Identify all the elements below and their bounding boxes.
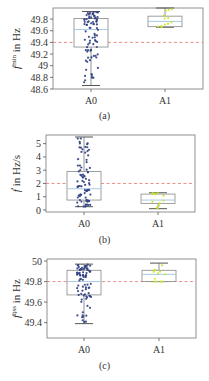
- data-point: [96, 34, 98, 36]
- iqr-box: [142, 270, 176, 281]
- data-point: [77, 137, 79, 139]
- data-point: [96, 23, 98, 25]
- data-point: [88, 17, 90, 19]
- y-tick-label: 1: [36, 191, 41, 202]
- data-point: [82, 286, 84, 288]
- data-point: [160, 25, 162, 27]
- data-point: [84, 184, 86, 186]
- data-point: [89, 265, 91, 267]
- data-point: [79, 164, 81, 166]
- data-point: [87, 142, 89, 144]
- x-tick-label: A1: [159, 95, 171, 106]
- data-point: [89, 204, 91, 206]
- data-point: [88, 20, 90, 22]
- data-point: [85, 274, 87, 276]
- data-point: [81, 148, 83, 150]
- data-point: [86, 24, 88, 26]
- data-point: [88, 179, 90, 181]
- data-point: [156, 207, 158, 209]
- data-point: [153, 271, 155, 273]
- data-point: [89, 40, 91, 42]
- y-tick-label: 49.2: [31, 49, 49, 60]
- data-point: [86, 14, 88, 16]
- data-point: [89, 271, 91, 273]
- data-point: [76, 274, 78, 276]
- data-point: [87, 200, 89, 202]
- data-point: [84, 284, 86, 286]
- data-point: [76, 201, 78, 203]
- data-point: [86, 18, 88, 20]
- data-point: [157, 192, 159, 194]
- data-point: [89, 167, 91, 169]
- y-tick-label: 49.6: [31, 25, 49, 36]
- iqr-box: [67, 270, 101, 295]
- box-a1: A1: [142, 263, 176, 355]
- data-point: [77, 205, 79, 207]
- data-point: [83, 23, 85, 25]
- x-tick-label: A1: [153, 344, 165, 355]
- data-point: [85, 30, 87, 32]
- data-point: [77, 284, 79, 286]
- data-point: [85, 315, 87, 317]
- data-point: [161, 280, 163, 282]
- chart-panel-b: 012345ḟ in Hz/sA0A1: [10, 135, 195, 229]
- y-tick-label: 50: [32, 256, 42, 267]
- data-point: [96, 41, 98, 43]
- data-point: [151, 193, 153, 195]
- data-point: [90, 49, 92, 51]
- data-point: [97, 29, 99, 31]
- data-point: [97, 67, 99, 69]
- data-point: [80, 301, 82, 303]
- data-point: [80, 166, 82, 168]
- data-point: [81, 180, 83, 182]
- data-point: [85, 196, 87, 198]
- data-point: [85, 60, 87, 62]
- data-point: [77, 158, 79, 160]
- data-point: [96, 46, 98, 48]
- data-point: [92, 43, 94, 45]
- data-point: [90, 73, 92, 75]
- data-point: [89, 59, 91, 61]
- data-point: [81, 298, 83, 300]
- data-point: [157, 26, 159, 28]
- data-point: [82, 177, 84, 179]
- y-tick-label: 49: [38, 60, 48, 71]
- data-point: [83, 19, 85, 21]
- caption-b: (b): [0, 234, 209, 245]
- x-tick-label: A1: [152, 218, 164, 229]
- data-point: [81, 290, 83, 292]
- data-point: [77, 196, 79, 198]
- data-point: [88, 13, 90, 15]
- data-point: [76, 180, 78, 182]
- data-point: [167, 23, 169, 25]
- data-point: [164, 273, 166, 275]
- data-point: [86, 169, 88, 171]
- data-point: [80, 137, 82, 139]
- data-point: [92, 21, 94, 23]
- iqr-box: [141, 194, 175, 203]
- data-point: [83, 268, 85, 270]
- data-point: [76, 314, 78, 316]
- data-point: [80, 151, 82, 153]
- data-point: [88, 149, 90, 151]
- data-point: [162, 199, 164, 201]
- data-point: [81, 316, 83, 318]
- data-point: [77, 164, 79, 166]
- data-point: [84, 151, 86, 153]
- data-point: [87, 154, 89, 156]
- data-point: [90, 22, 92, 24]
- data-point: [89, 193, 91, 195]
- data-point: [85, 286, 87, 288]
- data-point: [77, 186, 79, 188]
- data-point: [171, 8, 173, 10]
- data-point: [76, 272, 78, 274]
- data-point: [85, 265, 87, 267]
- y-tick-label: 0: [36, 205, 41, 216]
- data-point: [80, 293, 82, 295]
- data-point: [90, 283, 92, 285]
- data-point: [84, 192, 86, 194]
- data-point: [94, 36, 96, 38]
- data-point: [85, 159, 87, 161]
- data-point: [164, 17, 166, 19]
- data-point: [82, 311, 84, 313]
